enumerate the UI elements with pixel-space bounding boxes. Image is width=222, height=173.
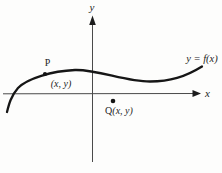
y-axis-label: y xyxy=(89,1,95,13)
point-q-dot xyxy=(111,99,116,104)
point-p-coords-label: (x, y) xyxy=(51,78,72,90)
y-axis-arrowhead-icon xyxy=(89,16,96,26)
x-axis-label: x xyxy=(204,87,210,99)
figure-canvas: y x y = f(x) P (x, y) Q(x, y) xyxy=(0,0,222,173)
point-q-coords-text: (x, y) xyxy=(112,105,133,117)
point-p-dot xyxy=(43,72,47,76)
axes xyxy=(3,16,201,163)
x-axis-arrowhead-icon xyxy=(193,90,202,97)
point-p-label: P xyxy=(45,57,51,68)
point-q-label: Q(x, y) xyxy=(105,105,133,117)
function-graph-figure: y x y = f(x) P (x, y) Q(x, y) xyxy=(0,0,222,173)
curve-equation-label: y = f(x) xyxy=(185,53,218,65)
